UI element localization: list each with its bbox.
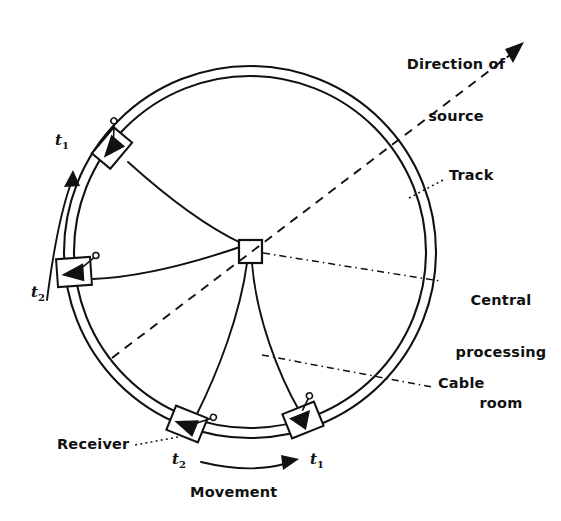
receiver-bottom-right-antenna-tip-icon — [306, 392, 314, 400]
label-direction-of-source: Direction of source — [386, 22, 526, 159]
label-direction-of-source-line1: Direction of — [386, 56, 526, 73]
leader-lines-group — [135, 180, 443, 445]
label-direction-of-source-line2: source — [386, 108, 526, 125]
time-marker-left-upper: t1 — [55, 131, 69, 151]
leader-line-cable — [262, 355, 432, 387]
diagram-canvas: Direction of source Track Central proces… — [0, 0, 561, 521]
time-marker-left-upper-base: t — [55, 131, 62, 149]
time-marker-bottom-right-base: t — [310, 450, 317, 468]
receiver-bottom-left-antenna-tip-icon — [209, 414, 217, 422]
time-marker-bottom-left-subscript: 2 — [179, 459, 186, 470]
cable-to-receiver-left — [93, 247, 240, 279]
time-marker-left-lower-subscript: 2 — [38, 292, 45, 303]
movement-arrow-bottom-head — [281, 455, 299, 470]
label-track: Track — [449, 167, 493, 184]
movement-arrow-bottom-curve — [201, 462, 284, 468]
receiver-left-antenna-tip-icon — [93, 252, 99, 258]
label-central-processing-room: Central processing room — [444, 258, 558, 446]
label-cable: Cable — [438, 375, 485, 392]
leader-line-central-processing-room — [263, 253, 440, 281]
movement-arrow-left-head — [64, 170, 80, 187]
time-marker-left-lower: t2 — [31, 283, 45, 303]
leader-line-receiver — [135, 437, 178, 445]
label-receiver: Receiver — [57, 436, 129, 453]
label-central-processing-room-line2: processing — [444, 344, 558, 361]
time-marker-bottom-right-subscript: 1 — [317, 459, 324, 470]
cable-to-receiver-bottom-left — [196, 263, 247, 416]
label-movement: Movement — [190, 484, 277, 501]
time-marker-bottom-right: t1 — [310, 450, 324, 470]
cable-group — [93, 162, 300, 416]
receiver-top-left-antenna-tip-icon — [110, 117, 118, 125]
time-marker-left-upper-subscript: 1 — [62, 140, 69, 151]
receiver-left[interactable] — [56, 252, 101, 287]
movement-arrow-bottom — [201, 455, 299, 470]
label-central-processing-room-line3: room — [444, 395, 558, 412]
time-marker-bottom-left: t2 — [172, 450, 186, 470]
receiver-bottom-right[interactable] — [279, 392, 325, 438]
time-marker-bottom-left-base: t — [172, 450, 179, 468]
cable-to-receiver-top-left — [128, 162, 241, 243]
label-central-processing-room-line1: Central — [444, 292, 558, 309]
time-marker-left-lower-base: t — [31, 283, 38, 301]
cable-to-receiver-bottom-right — [252, 263, 300, 412]
